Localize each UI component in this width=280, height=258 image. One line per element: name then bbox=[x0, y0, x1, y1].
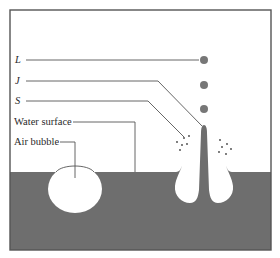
spray-dots-right bbox=[218, 139, 232, 155]
spray-dots-left bbox=[176, 135, 190, 151]
label-air-bubble: Air bubble bbox=[14, 136, 59, 148]
droplet-L bbox=[200, 56, 208, 64]
droplet-J bbox=[200, 81, 208, 89]
label-S: S bbox=[15, 95, 20, 107]
label-J: J bbox=[15, 75, 20, 87]
label-water-surface: Water surface bbox=[14, 116, 72, 128]
bubble-jet-diagram bbox=[0, 0, 280, 258]
droplet-S bbox=[200, 105, 208, 113]
label-L: L bbox=[15, 54, 21, 66]
leader-line-water-surface bbox=[73, 122, 135, 172]
